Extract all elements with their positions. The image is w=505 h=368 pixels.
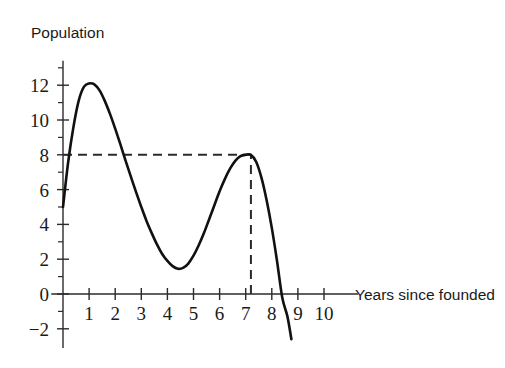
y-tick-label-neg2: −2 <box>29 319 49 340</box>
guide-lines-group <box>63 155 251 294</box>
population-chart: −2024681012 12345678910 Population Years… <box>0 0 505 368</box>
y-tick-label-2: 2 <box>40 249 50 270</box>
x-tick-label-7: 7 <box>241 303 251 324</box>
x-tick-label-4: 4 <box>163 303 173 324</box>
y-tick-label-10: 10 <box>30 110 49 131</box>
ticks-group <box>57 68 324 329</box>
x-tick-label-9: 9 <box>293 303 303 324</box>
chart-canvas: −2024681012 12345678910 Population Years… <box>0 0 505 368</box>
x-tick-label-3: 3 <box>137 303 147 324</box>
x-tick-label-1: 1 <box>84 303 94 324</box>
x-tick-label-2: 2 <box>110 303 120 324</box>
y-tick-label-12: 12 <box>30 75 49 96</box>
population-curve-group <box>63 83 291 339</box>
y-tick-label-4: 4 <box>40 214 50 235</box>
axes-group <box>51 61 358 348</box>
population-curve <box>63 83 291 339</box>
y-tick-label-8: 8 <box>40 145 50 166</box>
x-axis-tick-labels: 12345678910 <box>84 303 333 324</box>
x-axis-title: Years since founded <box>355 286 495 303</box>
y-tick-label-6: 6 <box>40 180 50 201</box>
y-tick-label-0: 0 <box>40 284 50 305</box>
x-tick-label-6: 6 <box>215 303 225 324</box>
x-tick-label-5: 5 <box>189 303 199 324</box>
x-tick-label-10: 10 <box>315 303 334 324</box>
y-axis-title: Population <box>31 24 104 41</box>
y-axis-tick-labels: −2024681012 <box>29 75 50 340</box>
x-tick-label-8: 8 <box>267 303 277 324</box>
